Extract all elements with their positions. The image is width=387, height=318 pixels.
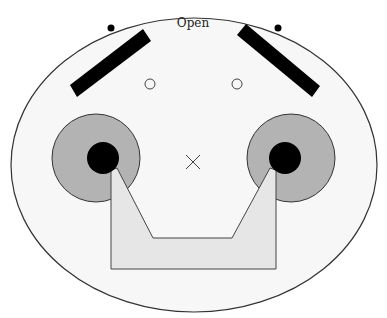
open-label: Open	[177, 16, 210, 30]
top-right-dot	[275, 25, 282, 32]
top-left-dot	[108, 25, 115, 32]
lock-diagram: Open	[0, 0, 387, 318]
right-ear-core	[269, 142, 301, 174]
left-ear-core	[87, 142, 119, 174]
